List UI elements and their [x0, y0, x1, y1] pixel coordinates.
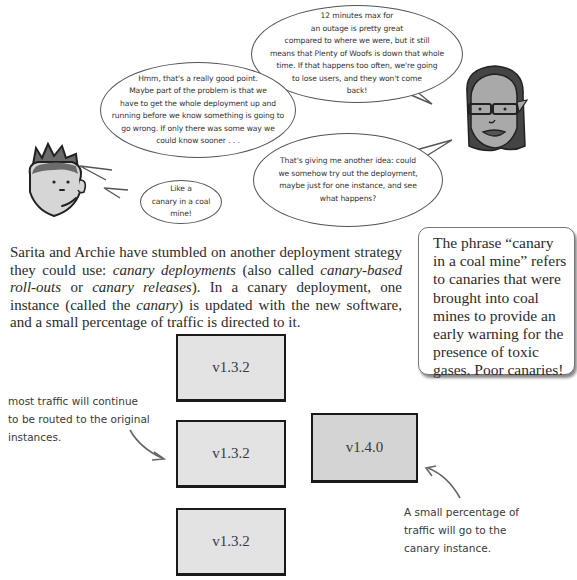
right-arrow-icon [428, 468, 460, 498]
body-paragraph: Sarita and Archie have stumbled on anoth… [10, 244, 402, 332]
bubble-line: compared to where we were, but it still [270, 35, 444, 48]
bubble-line: Like a [152, 183, 211, 196]
sidebar-text: The phrase “canary in a coal mine” refer… [433, 234, 566, 378]
instance-version-label: v1.3.2 [212, 359, 250, 376]
term-canary-releases: canary releases [92, 279, 192, 295]
bubble-line: Maybe part of the problem is that we [112, 85, 284, 98]
bubble-line: could know sooner . . . [112, 135, 284, 148]
bubble-line: mine! [152, 208, 211, 221]
bubble-line: Hmm, that's a really good point. [112, 73, 284, 86]
bubble-line: go wrong. If only there was some way we [112, 123, 284, 136]
annotation-line: most traffic will continue [8, 392, 150, 410]
bubble-line: That's giving me another idea: could [278, 155, 417, 168]
bubble-line: 12 minutes max for [270, 10, 444, 23]
speech-bubble-sarita-idea: That's giving me another idea: could we … [253, 133, 443, 227]
bubble-line: what happens? [278, 193, 417, 206]
term-canary: canary [136, 297, 178, 313]
para-text: or [61, 279, 92, 295]
term-canary-deployments: canary deployments [113, 262, 236, 278]
bubble-line: an outage is pretty great [270, 23, 444, 36]
para-text: (also called [236, 262, 320, 278]
sidebar-note: The phrase “canary in a coal mine” refer… [418, 227, 575, 375]
bubble-line: back! [270, 85, 444, 98]
bubble-line: we somehow try out the deployment, [278, 168, 417, 181]
speech-bubble-archie-canary: Like a canary in a coal mine! [140, 180, 222, 224]
speech-bubble-archie-hmm: Hmm, that's a really good point. Maybe p… [100, 62, 296, 158]
annotation-canary-traffic: A small percentage of traffic will go to… [404, 503, 519, 557]
bubble-line: running before we know something is goin… [112, 110, 284, 123]
annotation-line: canary instance. [404, 539, 519, 557]
annotation-line: traffic will go to the [404, 521, 519, 539]
bubble-line: maybe just for one instance, and see [278, 180, 417, 193]
annotation-most-traffic: most traffic will continue to be routed … [8, 392, 150, 446]
annotation-line: A small percentage of [404, 503, 519, 521]
bubble-line: means that Plenty of Woofs is down that … [270, 48, 444, 61]
bubble-line: time. If that happens too often, we're g… [270, 60, 444, 73]
bubble-line: canary in a coal [152, 196, 211, 209]
annotation-line: instances. [8, 428, 150, 446]
bubble-line: to lose users, and they won't come [270, 73, 444, 86]
bubble-line: have to get the whole deployment up and [112, 98, 284, 111]
annotation-line: to be routed to the original [8, 410, 150, 428]
